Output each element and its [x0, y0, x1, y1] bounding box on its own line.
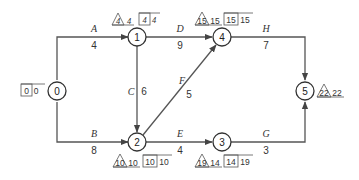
svg-text:22: 22: [319, 88, 329, 98]
svg-text:4: 4: [142, 15, 147, 25]
svg-text:19: 19: [197, 158, 207, 168]
svg-text:15: 15: [226, 15, 236, 25]
activity-E-name: E: [176, 128, 183, 139]
activity-D-duration: 9: [177, 40, 183, 51]
node-2: 2: [128, 133, 146, 151]
svg-text:19: 19: [240, 157, 250, 167]
svg-text:15: 15: [210, 16, 220, 26]
activity-E-duration: 4: [177, 145, 183, 156]
activity-G-duration: 3: [263, 145, 269, 156]
node-4-time-box: 15 15: [224, 13, 253, 25]
activity-H-name: H: [261, 23, 270, 34]
svg-text:15: 15: [197, 16, 207, 26]
node-3-triangle-marker: 19 14: [195, 154, 222, 168]
svg-text:10: 10: [145, 157, 155, 167]
node-2-time-box: 10 10: [143, 155, 172, 167]
node-3-time-box: 14 19: [224, 155, 253, 167]
activity-C-duration: 6: [141, 86, 147, 97]
svg-text:4: 4: [152, 15, 157, 25]
activity-D-name: D: [175, 23, 184, 34]
svg-text:10: 10: [115, 158, 125, 168]
svg-text:22: 22: [332, 88, 342, 98]
node-4: 4: [213, 28, 231, 46]
node-5-triangle-marker: 22 22: [317, 84, 344, 98]
activity-A-name: A: [90, 23, 98, 34]
activity-F-arrow: [143, 45, 216, 135]
svg-text:10: 10: [159, 157, 169, 167]
activity-F-duration: 5: [186, 89, 192, 100]
network-diagram: A 4 B 8 C 6 D 9 E 4 F 5 G 3 H 7 0 1 2 3 …: [0, 0, 359, 180]
svg-text:14: 14: [226, 157, 236, 167]
svg-text:4: 4: [127, 16, 132, 26]
activity-H-duration: 7: [263, 40, 269, 51]
activity-G-name: G: [262, 128, 269, 139]
node-1: 1: [128, 28, 146, 46]
node-2-label: 2: [134, 137, 140, 148]
node-1-triangle-marker: 4 4: [112, 13, 134, 26]
node-0-time-box: 0 0: [21, 84, 45, 96]
node-4-label: 4: [219, 32, 225, 43]
activity-C-name: C: [128, 86, 135, 97]
svg-text:15: 15: [240, 15, 250, 25]
node-5-label: 5: [302, 86, 308, 97]
activity-B-duration: 8: [91, 145, 97, 156]
activity-A-duration: 4: [91, 40, 97, 51]
activity-B-name: B: [91, 128, 97, 139]
svg-text:0: 0: [34, 86, 39, 96]
activity-F-name: F: [178, 75, 186, 86]
node-1-time-box: 4 4: [139, 13, 160, 25]
node-0-label: 0: [54, 86, 60, 97]
node-3-label: 3: [219, 137, 225, 148]
node-0: 0: [48, 82, 66, 100]
node-1-label: 1: [134, 32, 140, 43]
node-3: 3: [213, 133, 231, 151]
node-4-triangle-marker: 15 15: [195, 12, 222, 26]
node-2-triangle-marker: 10 10: [113, 154, 140, 168]
svg-text:0: 0: [24, 86, 29, 96]
svg-text:14: 14: [210, 158, 220, 168]
node-5: 5: [296, 82, 314, 100]
svg-text:10: 10: [128, 158, 138, 168]
